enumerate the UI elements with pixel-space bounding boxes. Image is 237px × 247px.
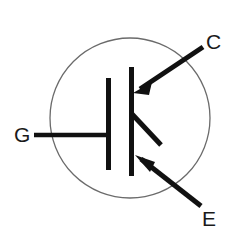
figure-canvas: G C E xyxy=(0,0,237,247)
emitter-terminal-label: E xyxy=(202,207,216,230)
collector-lead-line xyxy=(140,47,203,89)
igbt-symbol-diagram: G C E xyxy=(0,0,237,247)
collector-terminal-label: C xyxy=(206,30,221,53)
collector-arrowhead xyxy=(133,82,152,95)
base-stub-line xyxy=(132,114,161,145)
gate-terminal-label: G xyxy=(14,123,30,146)
